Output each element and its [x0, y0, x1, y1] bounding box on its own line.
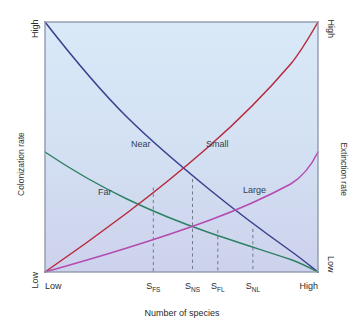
left-axis-low-label: Low	[30, 272, 40, 289]
left-axis-high-label: High	[30, 19, 40, 38]
right-axis-low-label: Low	[326, 256, 336, 273]
x-axis-title: Number of species	[144, 308, 220, 318]
plot-area	[45, 22, 318, 272]
right-axis-title: Extinction rate	[339, 142, 349, 196]
curve-label-near: Near	[131, 139, 151, 149]
right-axis-high-label: High	[326, 19, 336, 38]
chart-svg: Near Far Small Large High Low Colonizati…	[0, 0, 364, 328]
tick-sub-s-nl: NL	[252, 286, 261, 293]
curve-label-small: Small	[206, 139, 229, 149]
tick-sub-s-fs: FS	[152, 286, 161, 293]
x-axis-high-label: High	[299, 281, 318, 291]
curve-label-large: Large	[243, 185, 266, 195]
island-biogeography-figure: Near Far Small Large High Low Colonizati…	[0, 0, 364, 328]
plot-background	[45, 22, 318, 272]
left-axis-title: Colonization rate	[16, 132, 26, 196]
tick-sub-s-fl: FL	[217, 286, 225, 293]
curve-label-far: Far	[98, 187, 112, 197]
x-axis-low-label: Low	[45, 281, 62, 291]
tick-sub-s-ns: NS	[191, 286, 201, 293]
